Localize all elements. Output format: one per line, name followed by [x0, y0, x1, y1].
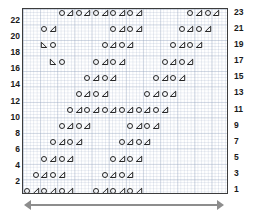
stitch-cell-23-5-triangle_right[interactable] — [66, 9, 75, 17]
stitch-cell-1-4-circle[interactable] — [57, 187, 66, 194]
stitch-cell-7-5-circle[interactable] — [66, 138, 75, 146]
stitch-cell-9-5-triangle_right[interactable] — [66, 122, 75, 130]
stitch-cell-3-2-triangle_right[interactable] — [40, 171, 49, 179]
stitch-cell-9-13-triangle_right[interactable] — [135, 122, 144, 130]
stitch-cell-11-13-circle[interactable] — [135, 106, 144, 114]
stitch-cell-21-10-circle[interactable] — [109, 25, 118, 33]
stitch-cell-23-12-circle[interactable] — [126, 9, 135, 17]
stitch-cell-21-19-triangle_right[interactable] — [186, 25, 195, 33]
stitch-cell-23-21-circle[interactable] — [203, 9, 212, 17]
stitch-cell-1-2-circle[interactable] — [40, 187, 49, 194]
stitch-cell-13-16-circle[interactable] — [160, 90, 169, 98]
stitch-cell-17-8-circle[interactable] — [92, 58, 101, 66]
stitch-cell-19-17-circle[interactable] — [169, 41, 178, 49]
stitch-cell-23-11-triangle_right[interactable] — [117, 9, 126, 17]
stitch-cell-5-12-circle[interactable] — [126, 155, 135, 163]
stitch-cell-13-8-circle[interactable] — [92, 90, 101, 98]
stitch-cell-21-11-triangle_right[interactable] — [117, 25, 126, 33]
stitch-cell-1-13-triangle_right[interactable] — [135, 187, 144, 194]
stitch-cell-19-2-triangle_left[interactable] — [40, 41, 49, 49]
stitch-cell-17-3-triangle_left[interactable] — [49, 58, 58, 66]
stitch-cell-21-3-triangle_right[interactable] — [49, 25, 58, 33]
stitch-cell-11-14-triangle_right[interactable] — [143, 106, 152, 114]
stitch-cell-1-5-triangle_right[interactable] — [66, 187, 75, 194]
stitch-cell-23-19-circle[interactable] — [186, 9, 195, 17]
stitch-cell-5-3-triangle_right[interactable] — [49, 155, 58, 163]
stitch-cell-19-9-circle[interactable] — [100, 41, 109, 49]
stitch-cell-1-1-triangle_right[interactable] — [32, 187, 41, 194]
stitch-cell-21-21-triangle_right[interactable] — [203, 25, 212, 33]
stitch-cell-15-9-circle[interactable] — [100, 74, 109, 82]
stitch-cell-3-4-triangle_right[interactable] — [57, 171, 66, 179]
stitch-cell-1-11-triangle_right[interactable] — [117, 187, 126, 194]
stitch-cell-21-13-triangle_right[interactable] — [135, 25, 144, 33]
stitch-cell-23-10-circle[interactable] — [109, 9, 118, 17]
stitch-cell-11-16-triangle_right[interactable] — [160, 106, 169, 114]
stitch-cell-7-6-triangle_right[interactable] — [75, 138, 84, 146]
stitch-cell-5-4-circle[interactable] — [57, 155, 66, 163]
stitch-cell-5-13-triangle_right[interactable] — [135, 155, 144, 163]
stitch-cell-5-2-circle[interactable] — [40, 155, 49, 163]
stitch-cell-1-0-circle[interactable] — [23, 187, 32, 194]
stitch-cell-7-3-circle[interactable] — [49, 138, 58, 146]
stitch-cell-17-17-triangle_right[interactable] — [169, 58, 178, 66]
stitch-cell-9-6-circle[interactable] — [75, 122, 84, 130]
stitch-cell-23-8-circle[interactable] — [92, 9, 101, 17]
stitch-cell-1-3-triangle_right[interactable] — [49, 187, 58, 194]
stitch-cell-23-22-triangle_right[interactable] — [212, 9, 221, 17]
stitch-cell-17-11-triangle_right[interactable] — [117, 58, 126, 66]
stitch-cell-15-8-triangle_right[interactable] — [92, 74, 101, 82]
stitch-cell-1-8-circle[interactable] — [92, 187, 101, 194]
stitch-cell-5-5-triangle_right[interactable] — [66, 155, 75, 163]
stitch-cell-21-12-circle[interactable] — [126, 25, 135, 33]
stitch-cell-13-9-triangle_right[interactable] — [100, 90, 109, 98]
stitch-cell-23-20-triangle_right[interactable] — [195, 9, 204, 17]
stitch-cell-21-20-circle[interactable] — [195, 25, 204, 33]
stitch-cell-7-14-triangle_right[interactable] — [143, 138, 152, 146]
stitch-cell-11-5-circle[interactable] — [66, 106, 75, 114]
stitch-cell-23-6-circle[interactable] — [75, 9, 84, 17]
stitch-cell-3-9-circle[interactable] — [100, 171, 109, 179]
stitch-cell-21-18-circle[interactable] — [178, 25, 187, 33]
stitch-cell-9-4-circle[interactable] — [57, 122, 66, 130]
stitch-cell-17-9-triangle_right[interactable] — [100, 58, 109, 66]
stitch-cell-17-4-circle[interactable] — [57, 58, 66, 66]
stitch-cell-19-3-circle[interactable] — [49, 41, 58, 49]
stitch-cell-11-9-circle[interactable] — [100, 106, 109, 114]
stitch-cell-19-12-triangle_right[interactable] — [126, 41, 135, 49]
stitch-cell-11-15-circle[interactable] — [152, 106, 161, 114]
stitch-cell-21-2-circle[interactable] — [40, 25, 49, 33]
stitch-cell-15-10-triangle_right[interactable] — [109, 74, 118, 82]
stitch-cell-9-7-triangle_right[interactable] — [83, 122, 92, 130]
stitch-cell-11-12-triangle_right[interactable] — [126, 106, 135, 114]
stitch-cell-15-15-circle[interactable] — [152, 74, 161, 82]
stitch-cell-3-1-circle[interactable] — [32, 171, 41, 179]
stitch-cell-1-10-circle[interactable] — [109, 187, 118, 194]
stitch-cell-7-12-triangle_right[interactable] — [126, 138, 135, 146]
stitch-cell-23-9-triangle_right[interactable] — [100, 9, 109, 17]
stitch-cell-23-13-triangle_right[interactable] — [135, 9, 144, 17]
stitch-cell-3-11-circle[interactable] — [117, 171, 126, 179]
stitch-cell-5-11-triangle_right[interactable] — [117, 155, 126, 163]
stitch-cell-19-18-triangle_right[interactable] — [178, 41, 187, 49]
stitch-cell-19-11-circle[interactable] — [117, 41, 126, 49]
stitch-cell-13-6-circle[interactable] — [75, 90, 84, 98]
stitch-cell-3-10-triangle_right[interactable] — [109, 171, 118, 179]
stitch-cell-9-15-triangle_right[interactable] — [152, 122, 161, 130]
stitch-cell-17-16-circle[interactable] — [160, 58, 169, 66]
stitch-cell-7-4-triangle_right[interactable] — [57, 138, 66, 146]
stitch-cell-3-12-triangle_right[interactable] — [126, 171, 135, 179]
stitch-cell-7-11-circle[interactable] — [117, 138, 126, 146]
stitch-cell-15-7-circle[interactable] — [83, 74, 92, 82]
stitch-cell-19-19-circle[interactable] — [186, 41, 195, 49]
stitch-cell-13-7-triangle_right[interactable] — [83, 90, 92, 98]
stitch-cell-7-13-circle[interactable] — [135, 138, 144, 146]
stitch-cell-9-12-circle[interactable] — [126, 122, 135, 130]
stitch-cell-11-10-triangle_right[interactable] — [109, 106, 118, 114]
stitch-cell-15-16-triangle_right[interactable] — [160, 74, 169, 82]
stitch-cell-3-3-circle[interactable] — [49, 171, 58, 179]
stitch-cell-11-8-triangle_right[interactable] — [92, 106, 101, 114]
stitch-cell-19-20-triangle_right[interactable] — [195, 41, 204, 49]
stitch-cell-23-4-circle[interactable] — [57, 9, 66, 17]
stitch-cell-1-9-triangle_right[interactable] — [100, 187, 109, 194]
